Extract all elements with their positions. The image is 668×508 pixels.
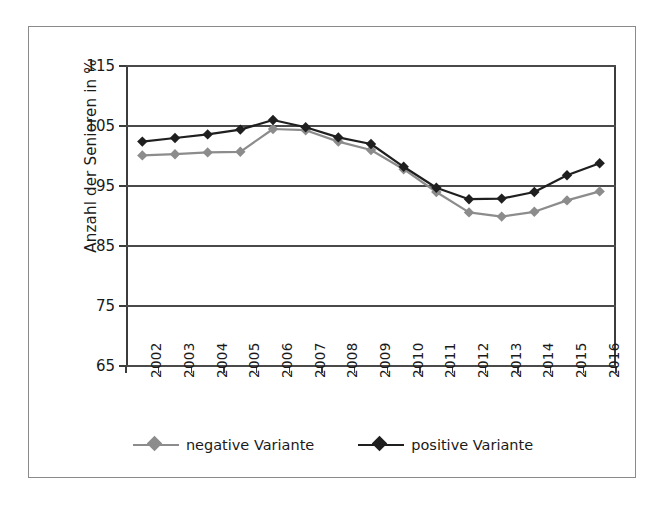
data-point-positive-variante-2005 [235,124,245,134]
screenshot-page: Anzahl der Senioren in % 11510595857565 … [0,0,668,508]
data-point-negative-variante-2002 [137,150,147,160]
data-point-positive-variante-2012 [464,194,474,204]
data-point-positive-variante-2016 [594,158,604,168]
plot-area: 11510595857565 2002200320042005200620072… [126,66,616,366]
data-point-positive-variante-2014 [529,187,539,197]
series-line-positive-variante [142,120,599,199]
y-tick-label-75: 75 [96,297,115,315]
data-point-negative-variante-2014 [529,207,539,217]
data-point-negative-variante-2016 [594,186,604,196]
series-layer [126,66,616,366]
legend-item-positive-variante: positive Variante [358,437,533,453]
y-tick-label-85: 85 [96,237,115,255]
data-point-negative-variante-2003 [170,149,180,159]
data-point-negative-variante-2013 [496,211,506,221]
y-tick-label-105: 105 [86,117,115,135]
y-tick-95 [119,185,126,187]
data-point-negative-variante-2004 [202,147,212,157]
legend-swatch-negative-variante [133,438,179,452]
data-point-negative-variante-2012 [464,207,474,217]
legend-label-negative-variante: negative Variante [186,437,314,453]
chart-legend: negative Variante positive Variante [29,437,637,453]
y-tick-75 [119,305,126,307]
data-point-negative-variante-2015 [562,195,572,205]
data-point-positive-variante-2004 [202,129,212,139]
y-tick-85 [119,245,126,247]
data-point-positive-variante-2006 [268,115,278,125]
y-tick-115 [119,65,126,67]
chart-figure-frame: Anzahl der Senioren in % 11510595857565 … [28,26,636,478]
legend-label-positive-variante: positive Variante [411,437,533,453]
y-tick-label-65: 65 [96,357,115,375]
data-point-positive-variante-2002 [137,136,147,146]
y-tick-105 [119,125,126,127]
y-tick-label-95: 95 [96,177,115,195]
data-point-positive-variante-2003 [170,133,180,143]
x-tick-0 [125,366,127,373]
legend-item-negative-variante: negative Variante [133,437,314,453]
y-tick-label-115: 115 [86,57,115,75]
legend-swatch-positive-variante [358,438,404,452]
data-point-positive-variante-2015 [562,170,572,180]
data-point-positive-variante-2013 [496,193,506,203]
